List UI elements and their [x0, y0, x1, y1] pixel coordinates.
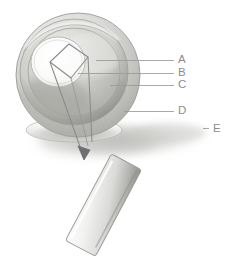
extracted-slab: [65, 154, 141, 256]
cast-shadow-tail: [130, 123, 206, 143]
label-d: D: [178, 105, 187, 117]
figure-canvas: A B C D E: [0, 0, 233, 270]
label-c: C: [178, 79, 187, 91]
sphere-cutaway-illustration: [0, 0, 233, 270]
label-e: E: [213, 123, 221, 135]
label-a: A: [178, 54, 186, 66]
label-b: B: [178, 67, 186, 79]
